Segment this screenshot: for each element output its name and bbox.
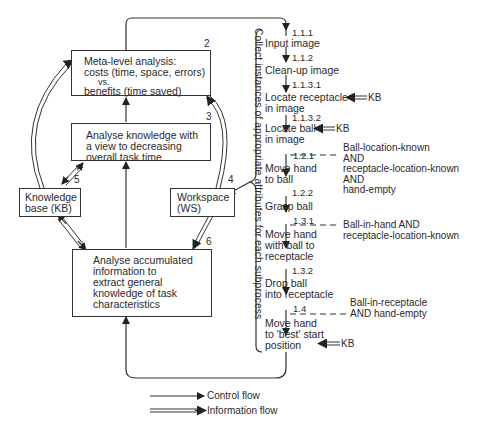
condition-1-3-1: Ball-in-hand AND receptacle-location-kno… (343, 220, 459, 241)
analyse-line-3: overall task time (86, 152, 210, 163)
step-move-hand-to-ball: Move hand to ball (265, 163, 317, 185)
condition-line: Ball-in-hand AND (343, 220, 459, 231)
box-number-5: 5 (74, 174, 80, 185)
step-line: to ball (265, 174, 317, 185)
condition-line: receptacle-location-known (343, 231, 459, 242)
condition-line: receptacle-location-known (343, 164, 459, 175)
step-locate-ball: Locate ball in image (265, 123, 316, 145)
box-number-4: 4 (228, 174, 234, 185)
condition-line: AND hand-empty (350, 309, 427, 320)
step-line: position (265, 340, 324, 351)
step-id-1-2-1: 1.2.1 (293, 150, 314, 161)
condition-1-2-1: Ball-location-known AND receptacle-locat… (343, 143, 459, 196)
step-move-hand-with-ball: Move hand with ball to receptacle (265, 229, 317, 262)
condition-1-4: Ball-in-receptacle AND hand-empty (350, 298, 427, 319)
kb-input-start: KB (341, 338, 354, 349)
step-move-hand-start: Move hand to 'best' start position (265, 318, 324, 351)
step-line: Grasp ball (265, 201, 313, 212)
step-id-1-3-1: 1.3.1 (293, 215, 314, 226)
step-id-1-4: 1.4 (293, 303, 306, 314)
step-id-1-1-2: 1.1.2 (292, 52, 313, 63)
analyse-knowledge-box: Analyse knowledge with a view to decreas… (71, 123, 211, 161)
step-line: Input image (265, 38, 320, 49)
step-locate-receptacle: Locate receptacle in image (265, 92, 348, 114)
step-grasp-ball: Grasp ball (265, 201, 313, 212)
step-id-1-2-2: 1.2.2 (292, 187, 313, 198)
knowledge-base-box: Knowledge base (KB) (19, 188, 81, 217)
step-line: Clean-up image (265, 65, 339, 76)
acc-line-5: characteristics (93, 299, 211, 310)
step-line: into receptacle (265, 289, 333, 300)
step-input-image: Input image (265, 38, 320, 49)
ws-line-2: (WS) (177, 203, 234, 214)
analyse-accumulated-box: Analyse accumulated information to extra… (72, 249, 212, 317)
step-line: receptacle (265, 251, 317, 262)
workspace-box: Workspace (WS) (170, 188, 235, 217)
meta-line-4: benefits (time saved) (84, 86, 210, 97)
collect-instances-label: Collect instances of appropriate attribu… (253, 28, 264, 319)
kb-input-ball: KB (336, 123, 349, 134)
step-clean-up-image: Clean-up image (265, 65, 339, 76)
step-line: in image (265, 134, 316, 145)
condition-line: Ball-in-receptacle (350, 298, 427, 309)
kb-input-receptacle: KB (368, 92, 381, 103)
condition-line: hand-empty (343, 185, 459, 196)
meta-level-analysis-box: Meta-level analysis: costs (time, space,… (71, 50, 211, 96)
legend-information-flow: Information flow (207, 406, 278, 416)
box-number-3: 3 (206, 111, 212, 122)
step-drop-ball: Drop ball into receptacle (265, 278, 333, 300)
kb-line-2: base (KB) (25, 203, 80, 214)
step-id-1-3-2: 1.3.2 (292, 265, 313, 276)
condition-line: Ball-location-known (343, 143, 459, 154)
box-number-6: 6 (206, 236, 212, 247)
step-id-1-1-3-1: 1.1.3.1 (292, 79, 321, 90)
box-number-2: 2 (204, 38, 210, 49)
legend-control-flow: Control flow (207, 391, 260, 401)
